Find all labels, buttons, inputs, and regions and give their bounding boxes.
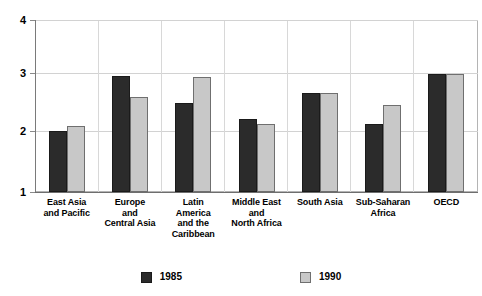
x-axis-category-labels: East Asiaand PacificEuropeandCentral Asi… (35, 197, 478, 255)
gridline-y-2 (36, 131, 478, 132)
y-tick-mark-2 (30, 131, 35, 132)
legend-item-1985[interactable]: 1985 (141, 272, 182, 283)
y-tick-mark-1 (30, 192, 35, 193)
clipped-top-text (0, 0, 3, 3)
y-tick-mark-4 (30, 20, 35, 21)
legend-label-1990: 1990 (319, 272, 341, 282)
y-tick-label-4: 4 (2, 15, 26, 26)
chart-legend: 19851990 (0, 266, 482, 288)
x-axis-label-3-line-1: and (219, 208, 294, 219)
y-tick-label-3: 3 (2, 68, 26, 79)
x-axis-label-6-line-0: OECD (409, 197, 482, 208)
gridline-category-3 (224, 21, 225, 192)
plot-area (35, 20, 478, 192)
y-tick-label-1: 1 (2, 187, 26, 198)
x-axis-label-5-line-1: Africa (345, 208, 420, 219)
gridline-category-6 (413, 21, 414, 192)
gridline-y-4 (36, 20, 478, 21)
y-axis-line (35, 20, 36, 193)
gridline-y-3 (36, 73, 478, 74)
legend-label-1985: 1985 (160, 272, 182, 282)
gridline-category-1 (98, 21, 99, 192)
legend-item-1990[interactable]: 1990 (300, 272, 341, 283)
y-tick-mark-3 (30, 73, 35, 74)
gridline-category-2 (161, 21, 162, 192)
clipped-top-text-artifact (0, 0, 482, 6)
dark-square-swatch (141, 272, 152, 283)
gridline-category-4 (287, 21, 288, 192)
y-tick-label-2: 2 (2, 126, 26, 137)
x-axis-label-3-line-2: North Africa (219, 218, 294, 229)
light-square-swatch (300, 272, 311, 283)
bar-chart: 4 3 2 1 East Asiaand PacificEuropeandCen… (0, 0, 482, 296)
x-axis-label-2-line-3: Caribbean (156, 229, 231, 240)
x-axis-line (35, 192, 478, 193)
gridline-category-5 (350, 21, 351, 192)
x-axis-label-6: OECD (409, 197, 482, 208)
